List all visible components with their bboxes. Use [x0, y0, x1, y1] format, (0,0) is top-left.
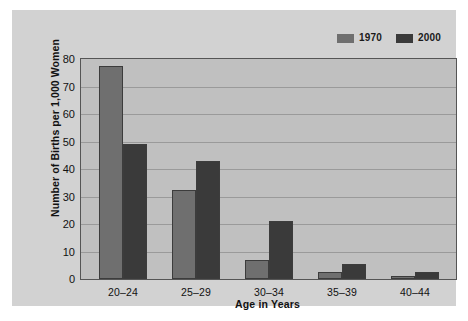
x-tick-label: 25–29 [161, 286, 231, 298]
bar-1970-25-29 [172, 190, 196, 279]
legend-swatch-2000 [396, 34, 413, 43]
plot-area: 01020304050607080 20–2425–2930–3435–3940… [80, 58, 457, 280]
y-tick-label: 60 [63, 108, 75, 120]
legend-entry-2000: 2000 [396, 33, 441, 43]
x-tick-label: 20–24 [88, 286, 158, 298]
y-axis-title: Number of Births per 1,000 Women [49, 23, 61, 233]
x-tick-label: 30–34 [234, 286, 304, 298]
bar-group: 25–29 [172, 59, 220, 279]
x-axis-title: Age in Years [80, 298, 455, 310]
bars-layer: 20–2425–2930–3435–3940–44 [81, 59, 456, 279]
bar-group: 35–39 [318, 59, 366, 279]
legend-label-1970: 1970 [359, 33, 382, 43]
y-tick-label: 40 [63, 163, 75, 175]
chart-legend: 1970 2000 [337, 31, 441, 45]
bar-2000-20-24 [123, 144, 147, 279]
y-tick-label: 0 [69, 273, 75, 285]
bar-1970-20-24 [99, 66, 123, 279]
y-tick-label: 70 [63, 81, 75, 93]
y-tick-label: 30 [63, 191, 75, 203]
chart-panel: 1970 2000 Number of Births per 1,000 Wom… [12, 10, 456, 306]
bar-1970-35-39 [318, 272, 342, 279]
y-tick-label: 80 [63, 53, 75, 65]
legend-label-2000: 2000 [418, 33, 441, 43]
bar-chart-figure: 1970 2000 Number of Births per 1,000 Wom… [0, 0, 468, 321]
bar-2000-30-34 [269, 221, 293, 279]
y-tick-label: 50 [63, 136, 75, 148]
bar-group: 40–44 [391, 59, 439, 279]
x-tick-label: 35–39 [307, 286, 377, 298]
legend-entry-1970: 1970 [337, 33, 382, 43]
bar-group: 20–24 [99, 59, 147, 279]
bar-1970-30-34 [245, 260, 269, 279]
legend-swatch-1970 [337, 34, 354, 43]
bar-2000-25-29 [196, 161, 220, 279]
bar-group: 30–34 [245, 59, 293, 279]
y-tick-label: 10 [63, 246, 75, 258]
bar-2000-40-44 [415, 272, 439, 279]
y-tick-label: 20 [63, 218, 75, 230]
x-tick-label: 40–44 [380, 286, 450, 298]
bar-1970-40-44 [391, 276, 415, 279]
bar-2000-35-39 [342, 264, 366, 279]
